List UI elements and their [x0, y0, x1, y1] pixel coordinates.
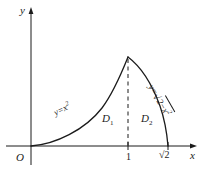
x-axis-label: x: [190, 150, 195, 161]
region-d2-subscript: 2: [149, 119, 153, 127]
y-axis-label: y: [20, 5, 25, 16]
x-tick-label-sqrt2: √2: [159, 150, 170, 160]
region-label-d1: D1: [102, 113, 113, 127]
math-figure: y x O 1 √2 y=x2 y=√2−x2 D1 D2: [0, 0, 204, 182]
x-tick-label-1: 1: [126, 152, 131, 162]
region-d1-name: D: [102, 112, 110, 124]
figure-canvas: [0, 0, 204, 182]
y-axis: [29, 7, 34, 165]
origin-label: O: [16, 152, 24, 163]
region-label-d2: D2: [141, 113, 152, 127]
region-d1-subscript: 1: [110, 119, 114, 127]
curve-parabola: [31, 57, 128, 146]
region-d2-name: D: [141, 112, 149, 124]
